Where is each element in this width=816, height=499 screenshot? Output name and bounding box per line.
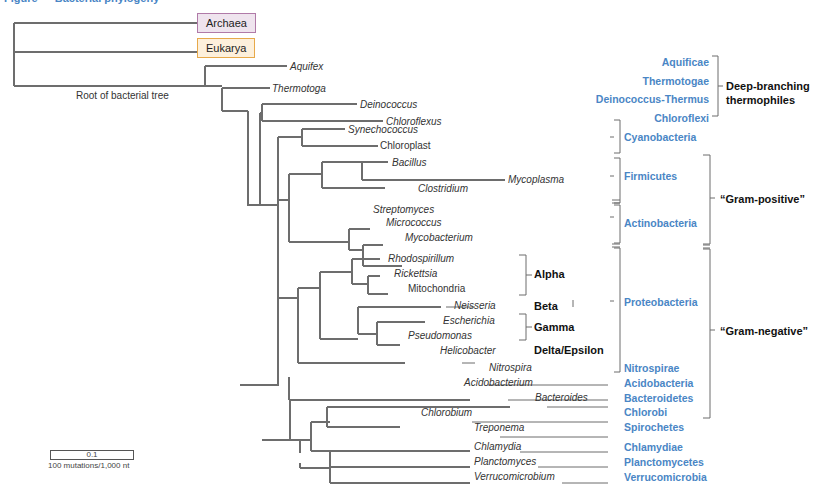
taxon-rickettsia: Rickettsia [394,268,437,280]
taxon-helicobacter: Helicobacter [440,345,496,357]
phylum-bacteroidetes: Bacteroidetes [624,392,693,405]
taxon-aquifex: Aquifex [290,61,323,73]
phylum-firmicutes: Firmicutes [624,170,677,183]
figure-title: Figure — Bacterial phylogeny [4,0,159,4]
taxon-verrucomicrobium: Verrucomicrobium [474,471,555,483]
taxon-clostridium: Clostridium [418,183,468,195]
scale-bar: 0.1 [50,450,134,460]
taxon-mycobacterium: Mycobacterium [405,232,473,244]
taxon-chloroplast: Chloroplast [380,140,431,152]
scale-bar-caption: 100 mutations/1,000 nt [48,461,129,470]
taxon-escherichia: Escherichia [443,315,495,327]
phylum-chlamydiae: Chlamydiae [624,441,683,454]
phylum-chlorobi: Chlorobi [624,406,667,419]
subgroup-delta-epsilon: Delta/Epsilon [534,344,604,357]
archaea-box: Archaea [197,13,256,33]
phylum-thermotogae: Thermotogae [642,75,709,88]
taxon-treponema: Treponema [474,422,524,434]
taxon-micrococcus: Micrococcus [386,217,442,229]
taxon-streptomyces: Streptomyces [373,204,434,216]
phylum-deinococcus-thermus: Deinococcus-Thermus [596,93,709,106]
taxon-neisseria: Neisseria [454,300,496,312]
taxon-acidobacterium: Acidobacterium [464,377,533,389]
root-label: Root of bacterial tree [76,90,169,102]
taxon-deinococcus: Deinococcus [360,99,417,111]
supergroup-thermophiles: Deep-branching thermophiles [726,79,814,107]
taxon-bacillus: Bacillus [392,157,426,169]
subgroup-gamma: Gamma [534,321,574,334]
taxon-pseudomonas: Pseudomonas [408,330,472,342]
supergroup-gram-negative: “Gram-negative” [720,324,808,338]
eukarya-box: Eukarya [197,38,255,58]
phylum-cyanobacteria: Cyanobacteria [624,131,696,144]
phylum-acidobacteria: Acidobacteria [624,377,693,390]
taxon-mycoplasma: Mycoplasma [508,174,564,186]
taxon-chlorobium: Chlorobium [421,407,472,419]
phylum-planctomycetes: Planctomycetes [624,456,704,469]
subgroup-beta: Beta [534,300,558,313]
phylum-chloroflexi: Chloroflexi [654,112,709,125]
phylum-actinobacteria: Actinobacteria [624,217,697,230]
taxon-bacteroides: Bacteroides [535,392,588,404]
phylum-proteobacteria: Proteobacteria [624,296,698,309]
taxon-chlamydia: Chlamydia [474,441,521,453]
phylum-aquificae: Aquificae [662,56,709,69]
phylum-verrucomicrobia: Verrucomicrobia [624,471,707,484]
supergroup-gram-positive: “Gram-positive” [720,192,805,206]
subgroup-alpha: Alpha [534,268,565,281]
taxon-synechococcus: Synechococcus [348,124,418,136]
taxon-rhodospirillum: Rhodospirillum [388,253,454,265]
taxon-thermotoga: Thermotoga [272,83,326,95]
taxon-nitrospira: Nitrospira [489,362,532,374]
taxon-mitochondria: Mitochondria [408,283,465,295]
phylum-nitrospirae: Nitrospirae [624,362,679,375]
taxon-planctomyces: Planctomyces [474,456,536,468]
phylum-spirochetes: Spirochetes [624,421,684,434]
